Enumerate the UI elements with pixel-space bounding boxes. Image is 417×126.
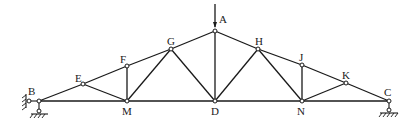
node-A bbox=[213, 29, 217, 33]
label-K: K bbox=[342, 69, 350, 81]
node-D bbox=[213, 99, 217, 103]
truss-members bbox=[39, 31, 389, 101]
node-C bbox=[387, 99, 391, 103]
label-E: E bbox=[75, 72, 82, 84]
member-GM bbox=[127, 49, 171, 101]
label-C: C bbox=[384, 86, 391, 98]
label-F: F bbox=[120, 53, 126, 65]
label-G: G bbox=[167, 35, 175, 47]
node-K bbox=[344, 81, 348, 85]
label-M: M bbox=[122, 105, 132, 117]
load-arrow-icon bbox=[213, 4, 217, 28]
node-G bbox=[169, 47, 173, 51]
member-GA bbox=[171, 31, 215, 49]
label-A: A bbox=[219, 13, 227, 25]
member-JK bbox=[302, 65, 346, 83]
support-B-icon bbox=[22, 94, 48, 118]
member-BE bbox=[39, 84, 83, 101]
truss-diagram: A B C D E F G H J K M N bbox=[0, 0, 417, 126]
member-EF bbox=[83, 66, 127, 84]
node-M bbox=[125, 99, 129, 103]
node-N bbox=[300, 99, 304, 103]
truss-nodes bbox=[37, 29, 391, 103]
label-B: B bbox=[28, 85, 35, 97]
label-D: D bbox=[211, 105, 219, 117]
node-J bbox=[300, 63, 304, 67]
member-GD bbox=[171, 49, 215, 101]
label-N: N bbox=[297, 105, 305, 117]
label-H: H bbox=[255, 35, 263, 47]
member-KN bbox=[302, 83, 346, 101]
label-J: J bbox=[299, 51, 304, 63]
node-H bbox=[256, 47, 260, 51]
member-AH bbox=[215, 31, 258, 49]
member-HD bbox=[215, 49, 258, 101]
member-KC bbox=[346, 83, 389, 101]
node-B bbox=[37, 99, 41, 103]
member-EM bbox=[83, 84, 127, 101]
